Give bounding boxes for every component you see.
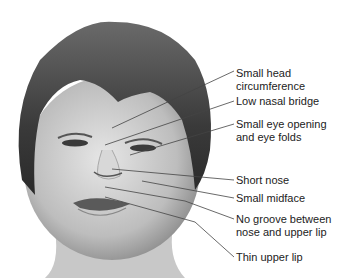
left-eye bbox=[62, 140, 88, 147]
label-small-head: Small head circumference bbox=[236, 67, 305, 93]
label-thin-upper-lip: Thin upper lip bbox=[236, 251, 303, 264]
label-low-nasal-bridge: Low nasal bridge bbox=[236, 95, 319, 108]
label-no-groove: No groove between nose and upper lip bbox=[236, 213, 331, 239]
label-small-eye-opening: Small eye opening and eye folds bbox=[236, 118, 327, 144]
label-short-nose: Short nose bbox=[236, 174, 289, 187]
face-diagram: Small head circumference Low nasal bridg… bbox=[0, 0, 340, 278]
label-small-midface: Small midface bbox=[236, 192, 305, 205]
